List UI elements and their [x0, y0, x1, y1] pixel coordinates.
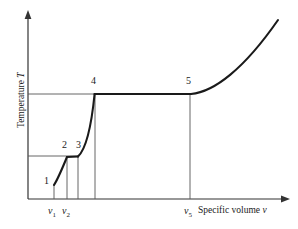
- x-tick-v1-sub: 1: [52, 211, 56, 219]
- x-tick-label-v1: v1: [48, 206, 56, 219]
- x-tick-label-v2: v2: [62, 206, 70, 219]
- segment-5-to-end: [191, 20, 278, 94]
- segment-1-to-2: [54, 157, 67, 185]
- state-label-3: 3: [76, 140, 81, 150]
- y-axis-title: Temperature T: [17, 72, 27, 128]
- chart-canvas: [0, 0, 298, 229]
- x-axis-title-text: Specific volume: [198, 205, 262, 215]
- state-label-5: 5: [186, 76, 191, 86]
- y-axis-arrowhead: [25, 10, 32, 19]
- axes-group: [25, 10, 290, 202]
- x-axis-title: Specific volume v: [198, 206, 267, 216]
- state-label-4: 4: [91, 76, 96, 86]
- t-v-diagram-figure: Temperature T Specific volume v 1 2 3 4 …: [0, 0, 298, 229]
- state-label-1: 1: [44, 176, 49, 186]
- y-axis-title-text: Temperature: [16, 78, 26, 128]
- x-tick-v2-sub: 2: [66, 211, 70, 219]
- reference-lines-group: [28, 94, 190, 199]
- x-tick-label-v5: v5: [184, 206, 192, 219]
- x-axis-title-symbol: v: [262, 205, 266, 215]
- x-axis-arrowhead: [281, 196, 290, 203]
- y-axis-title-symbol: T: [16, 72, 26, 77]
- state-label-2: 2: [62, 140, 67, 150]
- x-tick-v5-sub: 5: [188, 211, 192, 219]
- process-path-group: [54, 20, 278, 185]
- segment-2-to-3: [67, 157, 78, 158]
